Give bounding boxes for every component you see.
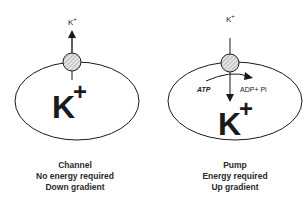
channel-caption: Channel No energy required Down gradient bbox=[5, 160, 145, 193]
pump-protein-icon bbox=[221, 54, 239, 72]
channel-caption-gradient: Down gradient bbox=[5, 182, 145, 193]
channel-outside-ion-label: K+ bbox=[68, 16, 77, 27]
channel-inside-ion-label: K+ bbox=[52, 78, 87, 125]
atp-arrowhead-icon bbox=[244, 72, 253, 80]
pump-caption-energy: Energy required bbox=[165, 171, 305, 182]
pump-caption-title: Pump bbox=[165, 160, 305, 171]
pump-arrowhead-icon bbox=[226, 94, 234, 102]
atp-label: ATP bbox=[196, 86, 211, 93]
pump-cell: K+ ATP ADP+ Pi K+ bbox=[168, 13, 302, 142]
channel-arrowhead-icon bbox=[68, 30, 76, 38]
pump-caption-gradient: Up gradient bbox=[165, 182, 305, 193]
channel-protein-icon bbox=[63, 53, 81, 71]
channel-caption-energy: No energy required bbox=[5, 171, 145, 182]
pump-caption: Pump Energy required Up gradient bbox=[165, 160, 305, 193]
adp-pi-label: ADP+ Pi bbox=[240, 86, 267, 93]
pump-outside-ion-label: K+ bbox=[226, 13, 235, 24]
channel-caption-title: Channel bbox=[5, 160, 145, 171]
channel-cell: K+ K+ bbox=[15, 16, 139, 140]
atp-hydrolysis-arrow bbox=[206, 74, 248, 81]
pump-inside-ion-label: K+ bbox=[218, 95, 253, 142]
